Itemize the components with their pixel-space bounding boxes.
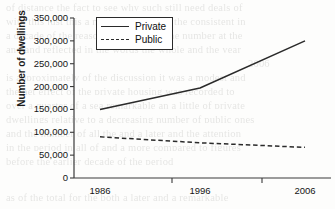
- chart-legend: Private Public: [96, 17, 173, 50]
- legend-item-private: Private: [101, 20, 166, 33]
- series-line-private: [100, 41, 305, 110]
- x-axis-ticks: [172, 178, 262, 183]
- legend-line-solid-icon: [101, 26, 129, 27]
- x-tick-label: 1996: [176, 185, 224, 196]
- legend-label: Public: [135, 34, 162, 45]
- x-tick-label: 2006: [281, 185, 329, 196]
- legend-label: Private: [135, 21, 166, 32]
- x-tick-label: 1986: [76, 185, 124, 196]
- chart-page: of distance the fact to see why such sti…: [0, 0, 335, 209]
- data-series-group: [100, 41, 305, 148]
- series-line-public: [100, 137, 305, 148]
- legend-line-dashed-icon: [101, 39, 129, 40]
- legend-item-public: Public: [101, 33, 166, 46]
